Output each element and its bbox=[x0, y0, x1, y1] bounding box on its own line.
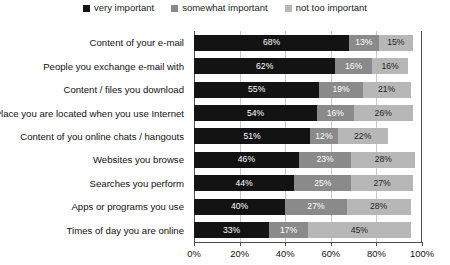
legend-label-not-too-important: not too important bbox=[296, 3, 367, 13]
bar-segment-value: 28% bbox=[351, 152, 415, 168]
bar-segment-value: 68% bbox=[194, 35, 349, 51]
category-label: Websites you browse bbox=[93, 148, 184, 171]
bar-row[interactable]: 54%16%26% bbox=[194, 101, 422, 124]
bar-segment-value: 26% bbox=[354, 105, 413, 121]
axis-tick-label: 60% bbox=[321, 248, 340, 259]
bar-row[interactable]: 46%23%28% bbox=[194, 148, 422, 171]
stacked-bar: 33%17%45% bbox=[194, 222, 411, 238]
legend-item-not-too-important[interactable]: not too important bbox=[285, 3, 367, 13]
bar-segment-value: 17% bbox=[269, 222, 308, 238]
x-axis-line bbox=[194, 242, 422, 243]
bar-segment-value: 51% bbox=[194, 128, 310, 144]
stacked-bar: 40%27%28% bbox=[194, 199, 411, 215]
bar-segment-value: 16% bbox=[372, 58, 408, 74]
legend-swatch-not-too-important bbox=[285, 5, 292, 12]
bar-segment-value: 27% bbox=[351, 175, 413, 191]
axis-tick-label: 80% bbox=[367, 248, 386, 259]
bar-segment-value: 62% bbox=[194, 58, 335, 74]
plot-area: 68%13%15%62%16%16%55%19%21%54%16%26%51%1… bbox=[194, 31, 422, 242]
axis-tick-label: 100% bbox=[410, 248, 434, 259]
category-axis-labels: Content of your e-mailPeople you exchang… bbox=[0, 31, 190, 242]
axis-tick bbox=[194, 242, 195, 246]
category-label: Content of you online chats / hangouts bbox=[20, 125, 184, 148]
stacked-bar: 46%23%28% bbox=[194, 152, 415, 168]
category-label: Content / files you download bbox=[63, 78, 184, 101]
category-label: Times of day you are online bbox=[67, 219, 185, 242]
bar-segment-value: 46% bbox=[194, 152, 299, 168]
axis-tick-label: 40% bbox=[276, 248, 295, 259]
bar-segment-value: 27% bbox=[285, 199, 347, 215]
stacked-bar-chart: very important somewhat important not to… bbox=[0, 0, 450, 265]
bar-segment-value: 40% bbox=[194, 199, 285, 215]
stacked-bar: 68%13%15% bbox=[194, 35, 413, 51]
category-label: Apps or programs you use bbox=[71, 195, 184, 218]
bar-segment-value: 12% bbox=[310, 128, 337, 144]
axis-tick bbox=[285, 242, 286, 246]
category-label: Place you are located when you use Inter… bbox=[0, 101, 184, 124]
stacked-bar: 44%25%27% bbox=[194, 175, 413, 191]
bar-segment-value: 16% bbox=[317, 105, 353, 121]
axis-tick bbox=[331, 242, 332, 246]
bar-segment-value: 54% bbox=[194, 105, 317, 121]
axis-tick-label: 20% bbox=[230, 248, 249, 259]
bar-row[interactable]: 62%16%16% bbox=[194, 54, 422, 77]
bar-segment-value: 15% bbox=[379, 35, 413, 51]
bar-segment-value: 28% bbox=[347, 199, 411, 215]
bar-row[interactable]: 51%12%22% bbox=[194, 125, 422, 148]
category-label: Content of your e-mail bbox=[90, 31, 184, 54]
bar-row[interactable]: 44%25%27% bbox=[194, 172, 422, 195]
legend-label-somewhat-important: somewhat important bbox=[182, 3, 268, 13]
bar-segment-value: 25% bbox=[294, 175, 351, 191]
bar-segment-value: 16% bbox=[335, 58, 371, 74]
legend-item-very-important[interactable]: very important bbox=[83, 3, 154, 13]
bar-segment-value: 21% bbox=[363, 82, 411, 98]
category-label: Searches you perform bbox=[90, 172, 184, 195]
bar-segment-value: 44% bbox=[194, 175, 294, 191]
bar-row[interactable]: 55%19%21% bbox=[194, 78, 422, 101]
bar-segment-value: 33% bbox=[194, 222, 269, 238]
bar-segment-value: 13% bbox=[349, 35, 379, 51]
stacked-bar: 62%16%16% bbox=[194, 58, 408, 74]
axis-tick bbox=[240, 242, 241, 246]
axis-tick bbox=[376, 242, 377, 246]
legend-item-somewhat-important[interactable]: somewhat important bbox=[171, 3, 268, 13]
legend-label-very-important: very important bbox=[94, 3, 154, 13]
bar-segment-value: 19% bbox=[319, 82, 362, 98]
bar-segment-value: 22% bbox=[338, 128, 388, 144]
bar-row[interactable]: 40%27%28% bbox=[194, 195, 422, 218]
bar-segment-value: 55% bbox=[194, 82, 319, 98]
chart-legend: very important somewhat important not to… bbox=[0, 3, 450, 13]
stacked-bar: 55%19%21% bbox=[194, 82, 411, 98]
bar-row[interactable]: 33%17%45% bbox=[194, 219, 422, 242]
stacked-bar: 54%16%26% bbox=[194, 105, 413, 121]
bar-row[interactable]: 68%13%15% bbox=[194, 31, 422, 54]
stacked-bar: 51%12%22% bbox=[194, 128, 388, 144]
legend-swatch-somewhat-important bbox=[171, 5, 178, 12]
axis-tick-label: 0% bbox=[187, 248, 201, 259]
bar-segment-value: 45% bbox=[308, 222, 411, 238]
legend-swatch-very-important bbox=[83, 5, 90, 12]
bar-rows: 68%13%15%62%16%16%55%19%21%54%16%26%51%1… bbox=[194, 31, 422, 242]
category-label: People you exchange e-mail with bbox=[43, 54, 184, 77]
axis-tick bbox=[422, 242, 423, 246]
bar-segment-value: 23% bbox=[299, 152, 351, 168]
